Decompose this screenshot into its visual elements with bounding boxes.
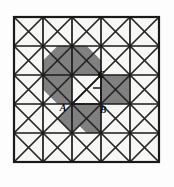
geometry-figure: ABC [0, 0, 174, 187]
label-b: B [99, 104, 107, 115]
label-a: A [59, 102, 67, 113]
label-c: C [98, 69, 105, 80]
geometry-canvas: ABC [0, 0, 174, 187]
